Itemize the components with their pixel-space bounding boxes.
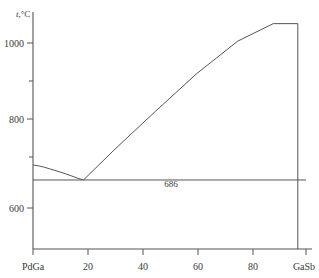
y-tick-label-600: 600 (9, 203, 24, 214)
liquidus-left-branch (33, 165, 84, 180)
y-axis-ticks (27, 43, 33, 208)
y-tick-label-1000: 1000 (4, 38, 24, 49)
data-series-group (33, 24, 306, 249)
chart-canvas: 1000 800 600 t,°C PdGa 20 40 60 80 GaSb … (0, 0, 319, 278)
eutectic-temperature-label: 686 (164, 179, 178, 189)
x-tick-label-gasb: GaSb (293, 261, 315, 272)
x-tick-label-pdga: PdGa (22, 261, 45, 272)
y-axis-title: t,°C (16, 9, 30, 19)
y-tick-label-800: 800 (9, 114, 24, 125)
liquidus-right-branch (84, 24, 298, 180)
x-axis-ticks (33, 249, 306, 255)
x-tick-label-40: 40 (138, 261, 148, 272)
x-tick-label-60: 60 (193, 261, 203, 272)
x-tick-label-80: 80 (248, 261, 258, 272)
x-tick-label-20: 20 (83, 261, 93, 272)
phase-diagram-chart: 1000 800 600 t,°C PdGa 20 40 60 80 GaSb … (0, 0, 319, 278)
y-axis-title-unit: ,°C (19, 9, 31, 19)
